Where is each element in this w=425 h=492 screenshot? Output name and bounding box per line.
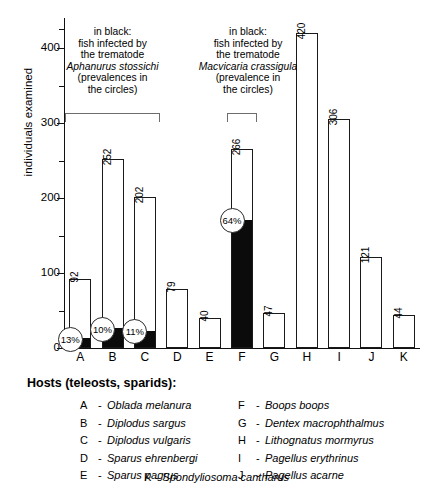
- host-key: D: [80, 450, 98, 468]
- x-tick-label-a: A: [64, 351, 96, 363]
- host-dash: -: [98, 415, 107, 433]
- x-tick-label-h: H: [291, 351, 323, 363]
- note-aphanurus-line4: Aphanurus stossichi: [54, 61, 172, 73]
- host-key: C: [80, 432, 98, 450]
- x-tick-label-j: J: [355, 351, 387, 363]
- note-aphanurus-line3: the trematode: [54, 49, 172, 61]
- hosts-legend-item-d: D-Sparus ehrenbergi: [80, 450, 198, 468]
- host-dash: -: [98, 467, 107, 485]
- bar-e[interactable]: 40: [199, 318, 221, 348]
- hosts-legend-title: Hosts (teleosts, sparids):: [27, 376, 176, 390]
- x-tick-label-d: D: [161, 351, 193, 363]
- hosts-legend-item-k: K-Spondyliosoma cantharus: [144, 472, 289, 483]
- host-dash: -: [151, 472, 162, 483]
- host-species: Diplodus sargus: [107, 417, 186, 429]
- host-species: Lithognatus mormyrus: [265, 434, 374, 446]
- y-tick-major: [57, 123, 64, 124]
- host-species: Diplodus vulgaris: [107, 434, 191, 446]
- y-tick-label: 0: [30, 342, 60, 354]
- note-aphanurus-line1: in black:: [54, 26, 172, 38]
- bar-f[interactable]: 266: [231, 149, 253, 349]
- y-tick-major: [57, 198, 64, 199]
- bar-j[interactable]: 121: [360, 257, 382, 348]
- note-aphanurus-text: in black:fish infected bythe trematodeAp…: [54, 26, 172, 96]
- hosts-legend-item-a: A-Oblada melanura: [80, 397, 198, 415]
- host-species: Sparus ehrenbergi: [107, 452, 198, 464]
- bar-value-label-f: 266: [232, 138, 242, 155]
- hosts-legend-item-h: H-Lithognatus mormyrus: [238, 432, 384, 450]
- host-dash: -: [256, 415, 265, 433]
- prevalence-circle-b: 10%: [90, 317, 115, 342]
- host-dash: -: [256, 397, 265, 415]
- note-macvicaria-text: in black:fish infected bythe trematodeMa…: [189, 26, 307, 96]
- x-tick-label-f: F: [226, 351, 258, 363]
- bar-value-label-a: 92: [70, 271, 80, 282]
- host-key: H: [238, 432, 256, 450]
- host-dash: -: [256, 432, 265, 450]
- note-macvicaria-line6: the circles): [189, 84, 307, 96]
- bar-value-label-g: 47: [264, 305, 274, 316]
- bar-value-label-d: 79: [167, 281, 177, 292]
- bar-value-label-e: 40: [200, 310, 210, 321]
- host-species: Dentex macrophthalmus: [265, 417, 384, 429]
- note-macvicaria-line5: (prevalence in: [189, 72, 307, 84]
- y-tick-label: 200: [30, 192, 60, 204]
- x-tick-label-g: G: [258, 351, 290, 363]
- y-tick-label: 100: [30, 267, 60, 279]
- host-key: K: [144, 471, 151, 483]
- bar-d[interactable]: 79: [166, 289, 188, 348]
- x-tick-label-k: K: [388, 351, 420, 363]
- note-aphanurus-bracket: [65, 113, 160, 122]
- y-tick-major: [57, 273, 64, 274]
- note-macvicaria-line2: fish infected by: [189, 38, 307, 50]
- note-macvicaria-bracket: [227, 113, 257, 122]
- host-dash: -: [98, 432, 107, 450]
- x-tick-label-c: C: [129, 351, 161, 363]
- hosts-legend-item-g: G-Dentex macrophthalmus: [238, 415, 384, 433]
- hosts-legend-item-c: C-Diplodus vulgaris: [80, 432, 198, 450]
- host-species: Spondyliosoma cantharus: [162, 471, 289, 483]
- hosts-legend-item-f: F-Boops boops: [238, 397, 384, 415]
- bar-g[interactable]: 47: [263, 313, 285, 348]
- bar-k[interactable]: 44: [393, 315, 415, 348]
- x-tick-label-i: I: [323, 351, 355, 363]
- bar-chart-plot: individuals examined 0100200300400 92252…: [0, 0, 425, 368]
- prevalence-circle-f: 64%: [220, 208, 245, 233]
- host-dash: -: [98, 397, 107, 415]
- bar-value-label-k: 44: [394, 307, 404, 318]
- hosts-legend-item-i: I-Pagellus erythrinus: [238, 450, 384, 468]
- bar-i[interactable]: 306: [328, 119, 350, 349]
- hosts-legend: Hosts (teleosts, sparids): A-Oblada mela…: [0, 368, 425, 492]
- bar-value-label-b: 252: [103, 149, 113, 166]
- note-aphanurus-line6: the circles): [54, 84, 172, 96]
- note-macvicaria-line4: Macvicaria crassigula: [189, 61, 307, 73]
- chart-page: individuals examined 0100200300400 92252…: [0, 0, 425, 492]
- bar-value-label-j: 121: [361, 247, 371, 264]
- host-dash: -: [256, 450, 265, 468]
- x-tick-label-e: E: [194, 351, 226, 363]
- host-key: I: [238, 450, 256, 468]
- host-species: Boops boops: [265, 399, 329, 411]
- note-aphanurus-line5: (prevalences in: [54, 72, 172, 84]
- host-key: B: [80, 415, 98, 433]
- bar-value-label-c: 202: [135, 186, 145, 203]
- note-macvicaria-line3: the trematode: [189, 49, 307, 61]
- host-dash: -: [98, 450, 107, 468]
- bar-infected-portion-f: [232, 220, 252, 348]
- note-aphanurus-line2: fish infected by: [54, 38, 172, 50]
- hosts-legend-item-b: B-Diplodus sargus: [80, 415, 198, 433]
- bar-value-label-i: 306: [329, 108, 339, 125]
- host-key: F: [238, 397, 256, 415]
- host-key: E: [80, 467, 98, 485]
- y-tick-label: 300: [30, 117, 60, 129]
- host-species: Oblada melanura: [107, 399, 191, 411]
- host-key: G: [238, 415, 256, 433]
- prevalence-circle-a: 13%: [58, 327, 83, 352]
- x-tick-label-b: B: [97, 351, 129, 363]
- note-macvicaria-line1: in black:: [189, 26, 307, 38]
- host-species: Pagellus erythrinus: [265, 452, 359, 464]
- host-key: A: [80, 397, 98, 415]
